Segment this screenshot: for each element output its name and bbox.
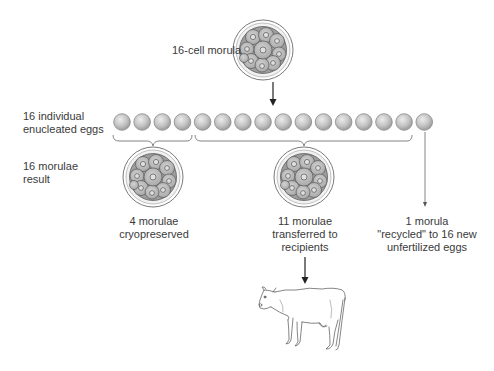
egg [416,114,433,131]
label-line: 4 morulae [108,215,200,228]
label-line: 16 morulae [23,160,78,173]
egg [194,114,211,131]
label-cryopreserved: 4 morulae cryopreserved [108,215,200,241]
egg [356,114,373,131]
egg [396,114,413,131]
label-line: recipients [258,241,352,254]
label-line: 1 morula [365,215,489,228]
egg [295,114,312,131]
label-transferred: 11 morulae transferred to recipients [258,215,352,254]
egg [214,114,231,131]
label-recycled: 1 morula "recycled" to 16 new unfertiliz… [365,215,489,254]
morula-transferred [274,147,334,207]
egg [154,114,171,131]
brace-transfer [195,135,412,146]
label-line: unfertilized eggs [365,241,489,254]
arrow-down-recycle [423,132,427,207]
morula-16-cell-top [233,20,293,80]
egg [275,114,292,131]
label-16-cell-morula: 16-cell morula [172,44,241,57]
morula-cryopreserved [123,147,183,207]
egg [134,114,151,131]
egg [174,114,191,131]
egg-row [114,114,433,131]
label-line: enucleated eggs [23,123,104,136]
label-line: transferred to [258,228,352,241]
arrow-down-cow [302,257,309,284]
egg [235,114,252,131]
egg [335,114,352,131]
label-morulae-result: 16 morulae result [23,160,78,186]
egg [114,114,131,131]
brace-cryo [113,135,192,146]
label-enucleated-eggs: 16 individual enucleated eggs [23,110,104,136]
label-line: "recycled" to 16 new [365,228,489,241]
egg [255,114,272,131]
arrow-down-top [270,82,277,106]
label-line: cryopreserved [108,228,200,241]
label-line: 11 morulae [258,215,352,228]
label-line: 16 individual [23,110,104,123]
label-line: result [23,173,78,186]
egg [315,114,332,131]
cow-illustration [259,287,345,350]
egg [376,114,393,131]
